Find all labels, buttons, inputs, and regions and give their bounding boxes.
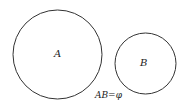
set-b-label: B: [139, 57, 147, 68]
set-a-label: A: [53, 48, 61, 59]
relation-label: AB=φ: [94, 90, 123, 100]
venn-diagram: A B AB=φ: [0, 0, 188, 110]
